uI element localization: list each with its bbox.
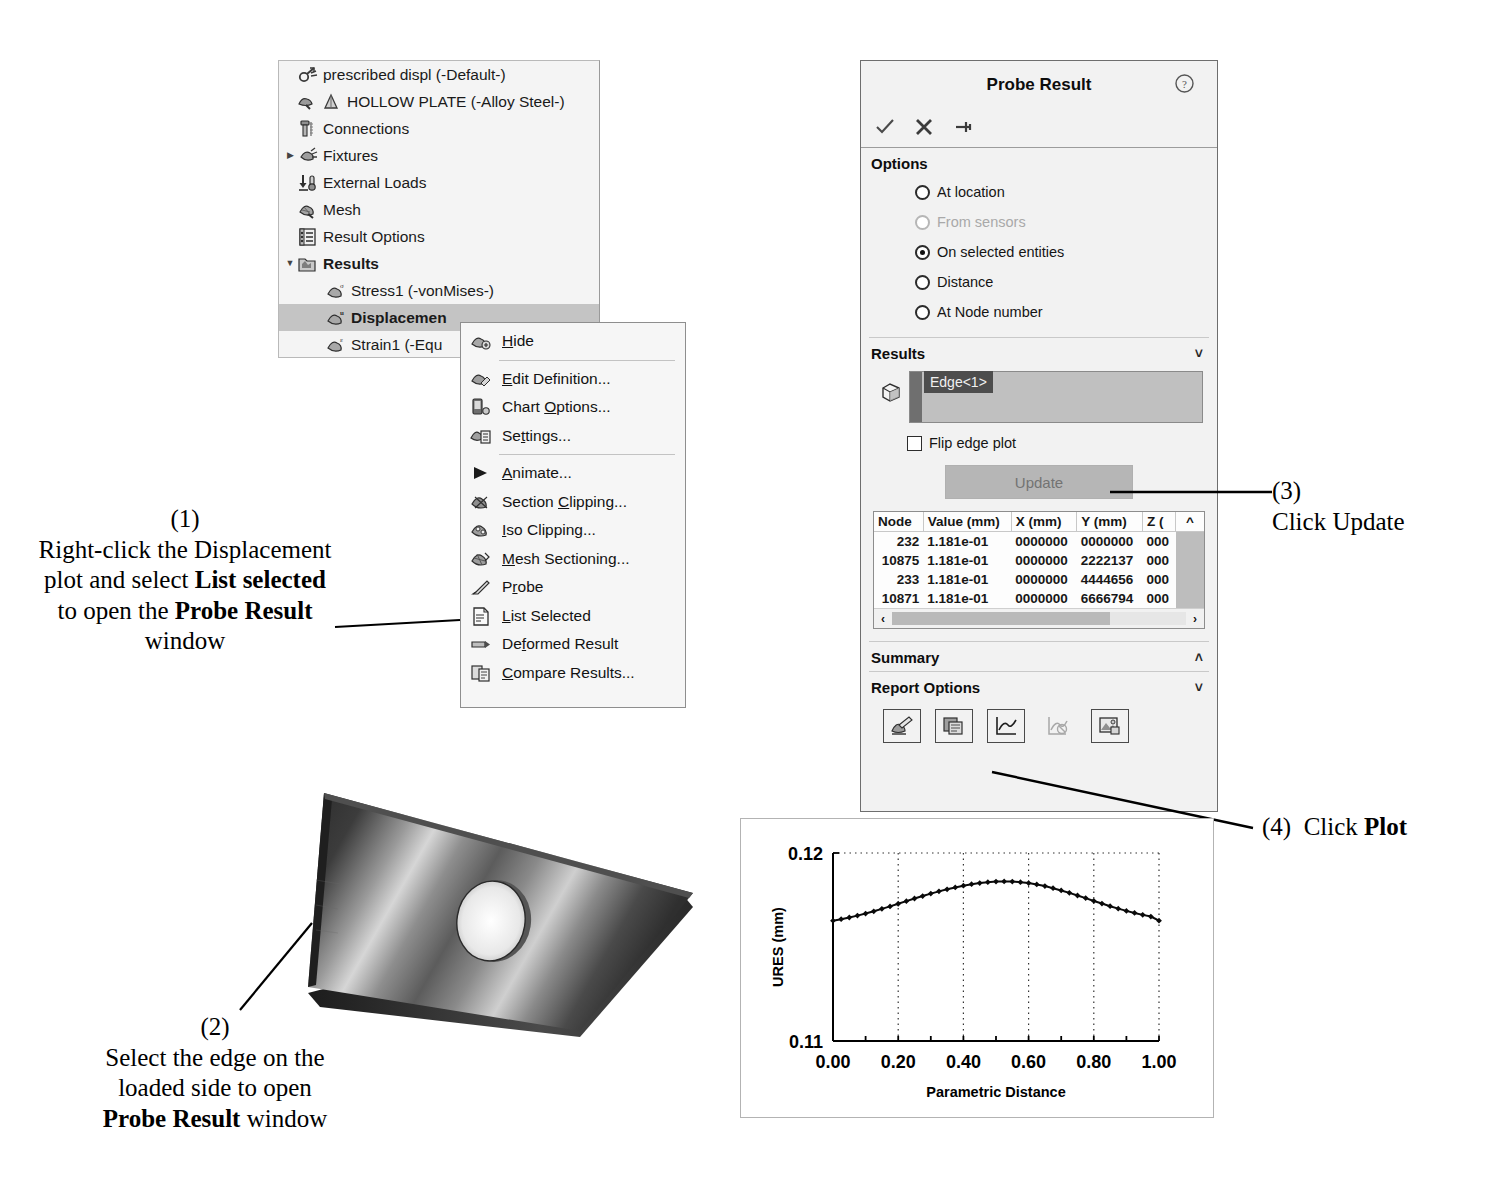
- radio-icon: [915, 305, 930, 320]
- annotation-2-line-1: Select the edge on the: [105, 1044, 324, 1071]
- table-row[interactable]: 10871 1.181e-01 0000000 6666794 000: [874, 589, 1204, 608]
- table-row[interactable]: 232 1.181e-01 0000000 0000000 000: [874, 532, 1204, 552]
- tree-item-result-options[interactable]: Result Options: [279, 223, 599, 250]
- menu-item-label: Animate...: [502, 464, 572, 482]
- col-node: Node: [874, 512, 923, 532]
- accept-button[interactable]: [875, 118, 895, 139]
- context-menu: Hide Edit Definition... Chart Options...: [460, 322, 686, 708]
- menu-separator: [499, 454, 675, 455]
- update-button[interactable]: Update: [945, 465, 1133, 499]
- connections-icon: [297, 119, 319, 139]
- tree-item-connections[interactable]: Connections: [279, 115, 599, 142]
- tree-item-part[interactable]: HOLLOW PLATE (-Alloy Steel-): [279, 88, 599, 115]
- radio-distance[interactable]: Distance: [861, 267, 1217, 297]
- compare-results-icon: [469, 663, 493, 683]
- iso-clipping-icon: [469, 520, 493, 540]
- scrollbar-track[interactable]: [892, 612, 1186, 625]
- chart-options-icon: [469, 397, 493, 417]
- tree-item-study[interactable]: prescribed displ (-Default-): [279, 61, 599, 88]
- radio-icon: [915, 275, 930, 290]
- scroll-right-arrow-icon[interactable]: ›: [1186, 612, 1204, 626]
- tree-item-label: External Loads: [323, 175, 426, 191]
- radio-icon: [915, 215, 930, 230]
- radio-on-selected-entities[interactable]: On selected entities: [861, 237, 1217, 267]
- table-row[interactable]: 10875 1.181e-01 0000000 2222137 000: [874, 551, 1204, 570]
- menu-item-edit-definition[interactable]: Edit Definition...: [461, 365, 685, 394]
- tree-item-label: Result Options: [323, 229, 425, 245]
- flip-edge-plot-label: Flip edge plot: [929, 435, 1016, 451]
- tree-item-stress1[interactable]: σ Stress1 (-vonMises-): [279, 277, 599, 304]
- tree-item-external-loads[interactable]: External Loads: [279, 169, 599, 196]
- menu-item-iso-clipping[interactable]: Iso Clipping...: [461, 516, 685, 545]
- menu-item-animate[interactable]: Animate...: [461, 459, 685, 488]
- vertical-scrollbar[interactable]: [1176, 532, 1205, 609]
- page-root: prescribed displ (-Default-) HOLLOW PLAT…: [0, 0, 1505, 1188]
- tree-item-label: Strain1 (-Equ: [351, 337, 442, 353]
- edit-definition-icon: [469, 369, 493, 389]
- save-image-icon[interactable]: [1091, 709, 1129, 743]
- face-selection-icon: [879, 371, 909, 407]
- tree-item-fixtures[interactable]: ▶ Fixtures: [279, 142, 599, 169]
- annotation-4: (4) Click Plot: [1262, 812, 1407, 843]
- plot-chart-icon[interactable]: [987, 709, 1025, 743]
- clear-plot-icon[interactable]: [1039, 709, 1077, 743]
- summary-section-header[interactable]: Summary ˄: [861, 642, 1217, 671]
- chevron-up-icon[interactable]: ˅: [1195, 347, 1203, 361]
- menu-item-label: Iso Clipping...: [502, 521, 596, 539]
- annotation-1-line-2: plot and select List selected: [44, 566, 326, 593]
- cell-node: 233: [874, 570, 923, 589]
- menu-item-hide[interactable]: Hide: [461, 327, 685, 356]
- menu-item-label: Compare Results...: [502, 664, 635, 682]
- results-section-header[interactable]: Results ˅: [861, 338, 1217, 367]
- cancel-button[interactable]: [915, 118, 933, 139]
- annotation-2: (2) Select the edge on the loaded side t…: [20, 1012, 410, 1134]
- annotation-1-line-3: to open the Probe Result: [57, 597, 312, 624]
- tree-item-mesh[interactable]: Mesh: [279, 196, 599, 223]
- radio-label: From sensors: [937, 214, 1026, 230]
- menu-item-list-selected[interactable]: List Selected: [461, 602, 685, 631]
- summary-header-label: Summary: [871, 649, 939, 666]
- scroll-up-arrow-icon[interactable]: ^: [1176, 512, 1205, 532]
- menu-item-mesh-sectioning[interactable]: Mesh Sectioning...: [461, 545, 685, 574]
- radio-at-node-number[interactable]: At Node number: [861, 297, 1217, 327]
- tree-item-results[interactable]: ▼ Results: [279, 250, 599, 277]
- tree-collapse-arrow[interactable]: ▼: [283, 259, 297, 268]
- radio-at-location[interactable]: At location: [861, 177, 1217, 207]
- radio-label: At location: [937, 184, 1005, 200]
- selection-list[interactable]: Edge<1>: [922, 372, 1202, 422]
- cell-x: 0000000: [1011, 570, 1077, 589]
- report-options-section-header[interactable]: Report Options ˅: [861, 672, 1217, 701]
- chevron-up-icon[interactable]: ˅: [1195, 681, 1203, 695]
- svg-text:σ: σ: [340, 282, 344, 290]
- save-file-icon[interactable]: [935, 709, 973, 743]
- col-z: Z (: [1142, 512, 1175, 532]
- menu-item-chart-options[interactable]: Chart Options...: [461, 393, 685, 422]
- menu-item-compare-results[interactable]: Compare Results...: [461, 659, 685, 688]
- checkbox-icon[interactable]: [907, 436, 922, 451]
- selection-gutter: [910, 372, 922, 422]
- horizontal-scrollbar[interactable]: ‹ ›: [874, 608, 1204, 628]
- radio-label: At Node number: [937, 304, 1043, 320]
- svg-text:1.00: 1.00: [1141, 1052, 1176, 1072]
- menu-item-settings[interactable]: Settings...: [461, 422, 685, 451]
- tree-item-label: HOLLOW PLATE (-Alloy Steel-): [347, 94, 565, 110]
- annotation-2-line-2: loaded side to open: [118, 1074, 312, 1101]
- chevron-down-icon[interactable]: ˄: [1195, 651, 1203, 665]
- tree-expand-arrow[interactable]: ▶: [283, 151, 297, 160]
- report-options-toolbar: [861, 701, 1217, 753]
- menu-item-label: Settings...: [502, 427, 571, 445]
- pin-button[interactable]: [953, 118, 973, 139]
- selection-box[interactable]: Edge<1>: [909, 371, 1203, 423]
- help-icon[interactable]: ?: [1174, 73, 1195, 97]
- menu-item-probe[interactable]: Probe: [461, 573, 685, 602]
- svg-text:ε: ε: [340, 336, 343, 344]
- menu-item-deformed-result[interactable]: Deformed Result: [461, 630, 685, 659]
- selection-item[interactable]: Edge<1>: [924, 371, 993, 393]
- list-selected-icon: [469, 606, 493, 626]
- menu-item-section-clipping[interactable]: Section Clipping...: [461, 488, 685, 517]
- scrollbar-thumb[interactable]: [892, 612, 1110, 625]
- table-row[interactable]: 233 1.181e-01 0000000 4444656 000: [874, 570, 1204, 589]
- save-sensor-icon[interactable]: [883, 709, 921, 743]
- scroll-left-arrow-icon[interactable]: ‹: [874, 612, 892, 626]
- flip-edge-plot-row[interactable]: Flip edge plot: [861, 423, 1217, 451]
